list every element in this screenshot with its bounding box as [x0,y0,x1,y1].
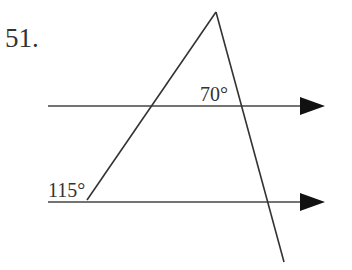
lower-arrowhead-icon [300,193,325,211]
angle-label-70: 70° [200,83,228,105]
angle-label-115: 115° [48,179,85,201]
right-transversal [216,12,284,262]
upper-arrowhead-icon [300,97,325,115]
problem-number: 51. [5,23,39,53]
geometry-figure: 51. 70° 115° [0,0,352,270]
